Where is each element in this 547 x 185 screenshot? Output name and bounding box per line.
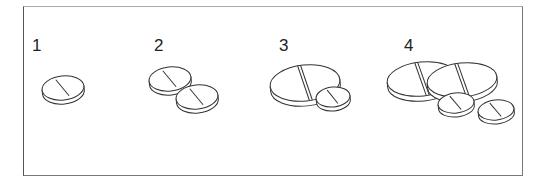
tablet-icon [41, 74, 86, 106]
tablet-group-1 [41, 74, 86, 106]
tablet-group-3 [268, 61, 351, 112]
tablet-group-4 [385, 58, 515, 125]
tablets-illustration [0, 0, 547, 185]
tablet-group-2 [148, 65, 220, 115]
tablet-icon [477, 98, 515, 126]
